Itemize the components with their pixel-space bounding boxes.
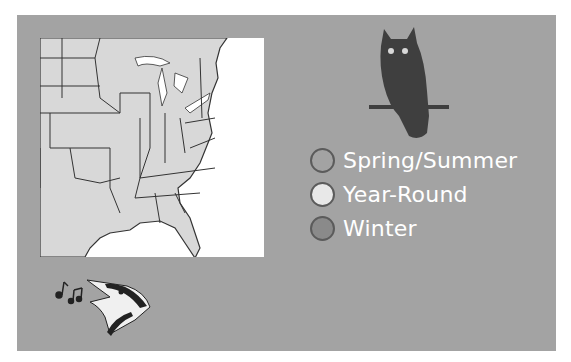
legend-item-winter: Winter [310, 211, 517, 245]
eastern-us-map [40, 38, 264, 257]
owl-silhouette-icon [369, 21, 455, 141]
music-notes-icon [56, 282, 82, 304]
singing-bird-icon [35, 272, 155, 342]
spring-summer-swatch [310, 148, 335, 173]
range-map-card: Spring/Summer Year-Round Winter [17, 15, 556, 351]
winter-swatch [310, 216, 335, 241]
legend-label: Spring/Summer [343, 148, 517, 173]
range-map [40, 38, 264, 257]
legend-item-spring-summer: Spring/Summer [310, 143, 517, 177]
legend-label: Year-Round [343, 182, 468, 207]
season-legend: Spring/Summer Year-Round Winter [310, 143, 517, 245]
legend-item-year-round: Year-Round [310, 177, 517, 211]
legend-label: Winter [343, 216, 417, 241]
year-round-swatch [310, 182, 335, 207]
